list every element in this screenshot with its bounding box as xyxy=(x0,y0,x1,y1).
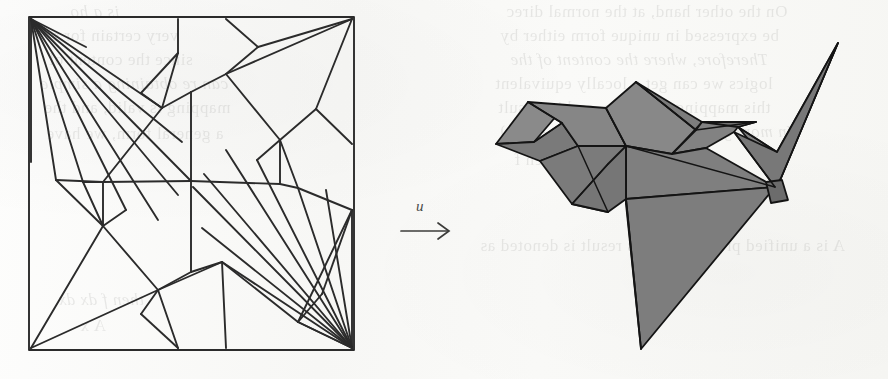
transform-arrow: u xyxy=(398,200,466,252)
figure-root: On the other hand, at the normal direcbe… xyxy=(0,0,888,379)
right-arrow-icon xyxy=(398,218,460,242)
fan-bottom-right xyxy=(193,150,352,348)
arrow-label-u: u xyxy=(416,199,424,214)
crease-wing-spine xyxy=(781,43,838,178)
facet-hinge-tab xyxy=(766,180,788,203)
folded-crane-drawing xyxy=(466,14,884,372)
crease-pattern-drawing xyxy=(26,14,357,353)
fan-top-left xyxy=(31,19,191,220)
folded-model-panel xyxy=(466,14,884,372)
facet-belly xyxy=(626,187,775,349)
lower-left-creases xyxy=(31,180,222,348)
crease-pattern-panel xyxy=(26,14,357,353)
